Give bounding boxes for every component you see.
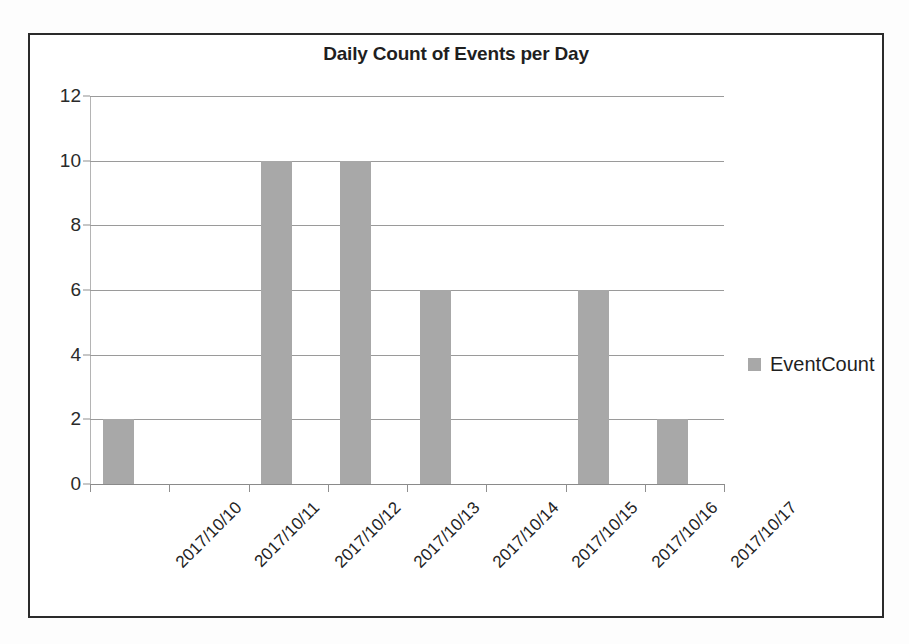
bar-slot — [328, 96, 407, 484]
bar-slot — [407, 96, 486, 484]
x-tick-mark — [328, 484, 329, 492]
x-tick-mark — [645, 484, 646, 492]
y-tick-mark-0 — [83, 484, 90, 485]
x-tick-label: 2017/10/17 — [727, 498, 801, 572]
x-tick-mark — [249, 484, 250, 492]
bar — [578, 290, 609, 484]
x-tick-label: 2017/10/11 — [251, 498, 324, 571]
bar — [340, 161, 371, 484]
x-tick-mark — [566, 484, 567, 492]
bar — [103, 419, 134, 484]
y-tick-label-4: 4 — [70, 344, 81, 366]
x-tick-mark — [169, 484, 170, 492]
bar-slot — [90, 96, 169, 484]
x-tick-label: 2017/10/15 — [568, 498, 642, 572]
x-tick-mark — [724, 484, 725, 492]
y-tick-mark-6 — [83, 290, 90, 291]
chart-frame: Daily Count of Events per Day 024681012 … — [28, 33, 884, 618]
bar-slot — [566, 96, 645, 484]
y-tick-mark-8 — [83, 225, 90, 226]
y-tick-label-12: 12 — [60, 85, 81, 107]
chart-legend: EventCount — [748, 353, 875, 376]
bar-slot — [486, 96, 565, 484]
x-tick-mark — [486, 484, 487, 492]
chart-title: Daily Count of Events per Day — [30, 43, 882, 65]
y-tick-mark-4 — [83, 354, 90, 355]
y-tick-label-8: 8 — [70, 214, 81, 236]
legend-label-eventcount: EventCount — [770, 353, 875, 376]
x-tick-label: 2017/10/13 — [410, 498, 484, 572]
y-tick-mark-2 — [83, 419, 90, 420]
bar — [420, 290, 451, 484]
scanned-page: Daily Count of Events per Day 024681012 … — [0, 0, 909, 644]
y-tick-label-10: 10 — [60, 150, 81, 172]
bar-slot — [169, 96, 248, 484]
x-tick-label: 2017/10/12 — [330, 498, 404, 572]
plot-area: 024681012 2017/10/102017/10/112017/10/12… — [90, 96, 724, 484]
y-tick-label-2: 2 — [70, 408, 81, 430]
bar-slot — [249, 96, 328, 484]
legend-swatch-eventcount — [748, 358, 761, 371]
y-tick-label-6: 6 — [70, 279, 81, 301]
bar-slot — [645, 96, 724, 484]
x-tick-label: 2017/10/10 — [172, 498, 246, 572]
x-tick-label: 2017/10/14 — [489, 498, 563, 572]
y-tick-mark-10 — [83, 160, 90, 161]
x-tick-mark — [407, 484, 408, 492]
x-tick-mark — [90, 484, 91, 492]
bar — [261, 161, 292, 484]
x-tick-label: 2017/10/16 — [647, 498, 721, 572]
bar — [657, 419, 688, 484]
y-tick-mark-12 — [83, 96, 90, 97]
y-tick-label-0: 0 — [70, 473, 81, 495]
